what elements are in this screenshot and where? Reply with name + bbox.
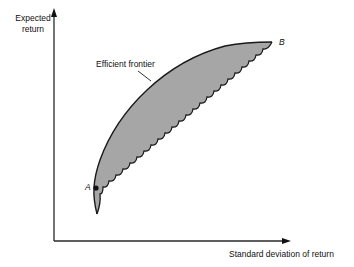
curve-label-leader — [138, 71, 151, 81]
y-axis-label: Expected return — [12, 13, 54, 35]
efficient-frontier-diagram — [0, 0, 354, 267]
efficient-frontier-label: Efficient frontier — [96, 59, 155, 70]
point-b-label: B — [279, 37, 285, 48]
x-axis-arrow-icon — [282, 238, 291, 244]
point-a-label: A — [85, 182, 91, 193]
y-axis-label-line2: return — [12, 24, 54, 35]
y-axis-label-line1: Expected — [12, 13, 54, 24]
x-axis-label: Standard deviation of return — [229, 249, 334, 260]
point-a-marker — [93, 185, 98, 190]
